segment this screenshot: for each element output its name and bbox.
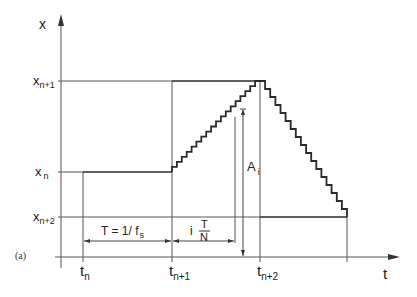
step-label-denominator: N [200,231,208,243]
reference-lines [58,81,260,217]
label-t-n: tn [80,262,90,282]
panel-label: (a) [15,250,26,262]
y-axis-label: x [39,16,46,32]
amplitude-arrow-down-icon [241,250,245,256]
y-axis-arrow-icon [58,14,64,26]
period-arrow-left-icon [84,239,90,243]
label-t-n1: tn+1 [169,262,191,282]
period-label: T = 1/ fs [101,224,144,240]
staircase-falling [260,81,347,217]
hold-signal [83,81,347,217]
label-x-n2: xn+2 [33,209,55,226]
labels: x t xn+1 xn xn+2 tn tn+1 tn+2 T = 1/ fs … [15,16,388,282]
amplitude-arrow-up-icon [241,109,245,115]
step-label-numerator: T [201,218,208,230]
period-arrow-right-icon [165,239,171,243]
label-x-n1: xn+1 [33,73,55,90]
sampled-staircase-diagram: x t xn+1 xn xn+2 tn tn+1 tn+2 T = 1/ fs … [0,0,417,297]
label-x-n: xn [35,164,49,181]
step-arrow-left-icon [173,239,179,243]
amplitude-label: Ai [247,159,260,177]
label-t-n2: tn+2 [257,262,279,282]
x-axis-label: t [383,265,388,282]
t-axis-arrow-icon [388,254,400,260]
step-arrow-right-icon [228,239,234,243]
step-label-i: i [190,224,193,238]
